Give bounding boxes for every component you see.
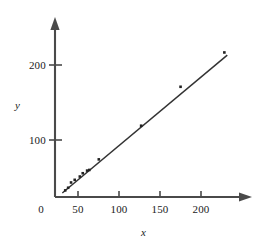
data-point bbox=[223, 51, 226, 54]
y-tick-label-200: 200 bbox=[20, 59, 46, 71]
data-point bbox=[64, 189, 67, 192]
x-tick-label-100: 100 bbox=[110, 203, 127, 215]
chart-figure: 200 100 0 50 100 150 200 y x bbox=[0, 0, 277, 249]
scatter-markers bbox=[64, 51, 226, 192]
y-axis-spine bbox=[50, 17, 59, 197]
x-axis-title: x bbox=[141, 226, 146, 238]
x-tick-label-150: 150 bbox=[151, 203, 168, 215]
data-point bbox=[79, 175, 82, 178]
y-axis-title: y bbox=[15, 99, 20, 111]
x-axis-spine bbox=[55, 192, 252, 201]
x-tick-label-200: 200 bbox=[192, 203, 209, 215]
data-point bbox=[67, 186, 70, 189]
data-point bbox=[81, 172, 84, 175]
data-point bbox=[70, 181, 73, 184]
x-tick-label-50: 50 bbox=[72, 203, 83, 215]
data-point bbox=[179, 85, 182, 88]
data-point bbox=[140, 124, 143, 127]
y-tick-label-100: 100 bbox=[20, 134, 46, 146]
x-tick-label-0: 0 bbox=[38, 203, 44, 215]
data-point bbox=[98, 158, 101, 161]
data-point bbox=[73, 179, 76, 182]
fit-line bbox=[62, 55, 227, 193]
data-point bbox=[88, 169, 91, 172]
